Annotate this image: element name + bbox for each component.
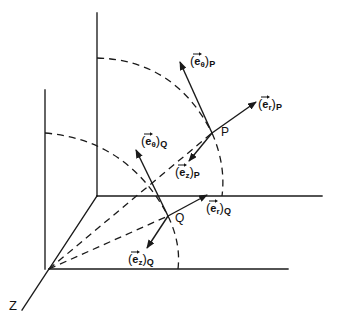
label-e-r-P: (er)P (258, 97, 282, 112)
label-e-z-Q: (ez)Q (128, 252, 154, 267)
label-e-z-P: (ez)P (175, 165, 200, 180)
vector-arrow-overbar-icon (144, 132, 153, 136)
axis-label-z: Z (9, 299, 17, 312)
drop-line-P (212, 133, 223, 196)
vector-arrow-overbar-icon (209, 199, 218, 203)
e-base-symbol: e (145, 136, 151, 147)
arrow-e-z-Q (147, 216, 168, 248)
dashed-construction-lines (45, 58, 223, 269)
point-subscript: P (276, 102, 282, 112)
arrow-e-theta-Q (136, 150, 168, 216)
e-base-symbol: e (210, 203, 216, 214)
z-axis (22, 269, 49, 310)
point-subscript: P (194, 170, 200, 180)
vector-arrow-overbar-icon (193, 52, 202, 56)
point-subscript: P (209, 59, 215, 69)
point-subscript: Q (160, 139, 167, 149)
label-e-r-Q: (er)Q (206, 201, 231, 216)
e-base-symbol: e (179, 167, 185, 178)
e-base-symbol: e (132, 254, 138, 265)
e-base-symbol: e (194, 56, 200, 67)
label-e-theta-P: (eθ)P (190, 54, 215, 69)
e-base-symbol: e (262, 99, 268, 110)
vector-arrow-overbar-icon (261, 95, 270, 99)
cylindrical-coordinates-figure: (eθ)P (er)P (ez)P (eθ)Q (er)Q (ez)Q P Q … (0, 0, 338, 329)
point-subscript: Q (147, 257, 154, 267)
figure-drawing (0, 0, 338, 329)
label-e-theta-Q: (eθ)Q (141, 134, 167, 149)
arrow-e-theta-P (180, 62, 212, 133)
arrow-e-r-P (212, 102, 256, 133)
vector-arrow-overbar-icon (178, 163, 187, 167)
point-subscript: Q (224, 206, 231, 216)
arrow-e-r-Q (168, 195, 207, 216)
point-label-Q: Q (175, 212, 184, 224)
arrow-e-z-P (189, 133, 212, 161)
point-label-P: P (221, 126, 229, 138)
radial-line-P (49, 133, 212, 269)
vector-arrow-overbar-icon (131, 250, 140, 254)
unit-vector-arrows (136, 62, 256, 248)
solid-axes (22, 13, 322, 310)
